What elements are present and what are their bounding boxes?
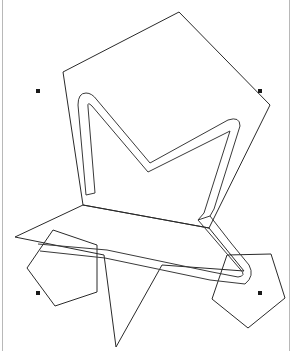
selected-path-outer-outline[interactable] <box>40 93 251 284</box>
selected-path-start-cap <box>86 193 95 195</box>
selection-handle-top-left[interactable] <box>36 89 40 93</box>
drawing-surface[interactable] <box>0 0 297 351</box>
selection-handle-bottom-left[interactable] <box>36 291 40 295</box>
drawing-canvas[interactable] <box>0 0 297 351</box>
selection-handle-bottom-right[interactable] <box>258 291 262 295</box>
selected-path-inner-outline[interactable] <box>38 104 243 277</box>
selection-handle-top-right[interactable] <box>258 89 262 93</box>
large-pentagon-shape[interactable] <box>63 12 270 228</box>
